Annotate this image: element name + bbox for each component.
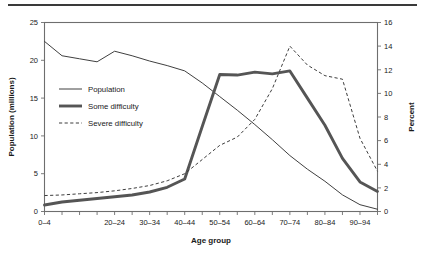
- x-tick-label: 50–54: [209, 218, 230, 227]
- x-axis: 0–420–2430–3440–4450–5460–6470–7480–8490…: [38, 212, 377, 227]
- y2-tick-label: 12: [384, 66, 392, 75]
- y2-tick-label: 6: [384, 136, 388, 145]
- y-tick-label: 20: [30, 56, 38, 65]
- y-tick-label: 15: [30, 94, 38, 103]
- y2-tick-label: 4: [384, 160, 388, 169]
- y-axis-right-title: Percent: [407, 102, 416, 132]
- x-tick-label: 90–94: [350, 218, 371, 227]
- x-tick-label: 60–64: [244, 218, 265, 227]
- chart-canvas: 0 5 10 15 20 25 Population (millions) 0 …: [0, 0, 425, 260]
- legend-label-some-difficulty: Some difficulty: [88, 102, 139, 111]
- x-axis-title: Age group: [191, 236, 231, 245]
- y2-tick-label: 2: [384, 184, 388, 193]
- y2-tick-label: 10: [384, 89, 392, 98]
- figure-container: 0 5 10 15 20 25 Population (millions) 0 …: [0, 0, 425, 260]
- y-tick-label: 5: [34, 169, 38, 178]
- y2-tick-label: 14: [384, 42, 392, 51]
- x-tick-label: 20–24: [104, 218, 125, 227]
- y-tick-label: 0: [34, 207, 38, 216]
- x-tick-label: 70–74: [279, 218, 300, 227]
- y-tick-label: 10: [30, 132, 38, 141]
- y2-tick-label: 8: [384, 113, 388, 122]
- y2-tick-label: 0: [384, 207, 388, 216]
- x-tick-label: 0–4: [38, 218, 51, 227]
- y-axis-left: 0 5 10 15 20 25: [30, 18, 45, 216]
- x-tick-label: 40–44: [174, 218, 195, 227]
- y2-tick-label: 16: [384, 18, 392, 27]
- y-axis-right: 0 2 4 6 8 10 12 14 16: [378, 18, 393, 216]
- legend-label-population: Population: [88, 85, 125, 94]
- y-tick-label: 25: [30, 18, 38, 27]
- legend-label-severe-difficulty: Severe difficulty: [88, 119, 143, 128]
- x-tick-label: 30–34: [139, 218, 160, 227]
- y-axis-left-title: Population (millions): [7, 77, 16, 156]
- legend: Population Some difficulty Severe diffic…: [59, 85, 143, 128]
- x-tick-label: 80–84: [314, 218, 335, 227]
